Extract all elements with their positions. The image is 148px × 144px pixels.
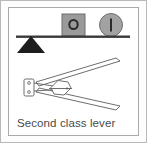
jaw-pivot-dot [66,87,68,89]
square-weight-body [62,14,85,36]
nutcracker [24,58,120,110]
circle-weight [100,14,123,37]
seesaw-lever [16,14,130,54]
square-weight [62,14,85,36]
figure-caption: Second class lever [17,117,115,130]
nut-shape [51,81,71,96]
lever-beam [16,36,130,38]
triangle-fulcrum [17,36,45,53]
lower-handle-arm [36,88,120,110]
hinge-rivet-top [28,82,31,85]
upper-handle-arm [36,58,120,86]
second-class-lever-figure: Second class lever [0,0,148,144]
hinge-rivet-bottom [28,91,31,94]
